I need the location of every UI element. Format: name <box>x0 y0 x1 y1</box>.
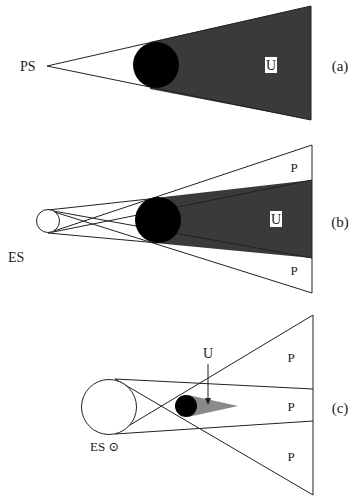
shadow-diagram: U PS (a) U P P ES (b) U P P P <box>0 0 356 500</box>
extended-source-c <box>82 380 137 435</box>
source-label-b: ES <box>8 250 24 265</box>
panel-a: U PS (a) <box>20 6 348 120</box>
penumbra-label-c-bottom: P <box>287 449 294 464</box>
panel-b: U P P ES (b) <box>8 145 349 293</box>
panel-label-b: (b) <box>331 214 349 231</box>
panel-label-c: (c) <box>332 400 349 417</box>
opaque-object-b <box>135 197 181 243</box>
source-label-a: PS <box>20 59 36 74</box>
umbra-label-b: U <box>271 212 281 227</box>
opaque-object-c <box>175 395 197 417</box>
opaque-object-a <box>133 42 179 88</box>
umbra-label-a: U <box>266 58 276 73</box>
panel-label-a: (a) <box>332 58 349 75</box>
penumbra-label-c-top: P <box>287 350 294 365</box>
umbra-label-c: U <box>203 346 213 361</box>
penumbra-label-c-middle: P <box>287 399 294 414</box>
panel-c: U P P P ES ⊙ (c) <box>82 315 349 495</box>
penumbra-label-b-top: P <box>290 160 297 175</box>
penumbra-label-b-bottom: P <box>290 263 297 278</box>
source-label-c: ES ⊙ <box>90 439 119 454</box>
extended-source-b <box>37 210 60 233</box>
